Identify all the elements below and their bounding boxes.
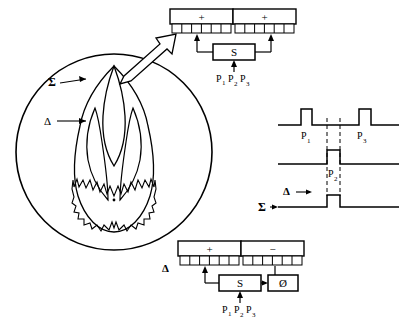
wave-delta-label: Δ (283, 185, 290, 197)
top-feed-network: + + (170, 9, 296, 88)
wave-p2-sub: 2 (334, 175, 338, 183)
bottom-left-port-label: + (206, 243, 212, 255)
bottom-feed-network: + − Δ (162, 241, 304, 319)
phase-shifter-label: Ø (279, 277, 287, 289)
bottom-right-port-label: − (269, 243, 275, 255)
sum-label: Σ (48, 75, 56, 89)
wave-p3-sub: 3 (363, 137, 367, 145)
coverage-circle (16, 54, 212, 250)
delta-label: Δ (44, 115, 51, 127)
bottom-left-element-strip (180, 256, 239, 265)
top-right-element-strip (235, 24, 294, 33)
waveform-group: P 1 P 3 P 2 Δ Σ (258, 109, 399, 214)
top-right-port-label: + (261, 11, 267, 23)
trace-delta-sum-output (278, 195, 399, 207)
top-combiner-input-arrowhead (231, 60, 237, 67)
top-left-port-label: + (198, 11, 204, 23)
top-left-feed-path (194, 34, 213, 52)
antenna-pattern-group: Σ Δ (16, 54, 212, 250)
top-left-element-strip (172, 24, 231, 33)
combiner-to-phase-link (261, 281, 268, 286)
bottom-combiner-label: S (237, 277, 243, 289)
block-arrow-icon (120, 34, 176, 84)
bottom-left-feed-arrowhead (202, 266, 208, 273)
top-combiner-input (231, 60, 237, 72)
sum-arrowhead (79, 76, 86, 82)
bottom-combiner-input-arrowhead (237, 291, 243, 298)
bottom-pulse-sub-2: 2 (240, 311, 244, 319)
boresight-dot (113, 199, 116, 202)
bottom-right-element-strip (243, 256, 302, 265)
wave-delta-arrowhead (306, 190, 312, 195)
delta-arrowhead (79, 118, 86, 124)
top-right-feed-path (255, 34, 274, 52)
top-combiner-label: S (231, 46, 237, 58)
bottom-left-feed-path (202, 266, 219, 283)
bottom-pulse-sub-1: 1 (228, 310, 232, 318)
wave-sum-arrowhead (272, 205, 278, 210)
monopulse-radar-diagram: Σ Δ + + (0, 0, 401, 326)
top-pulse-sub-2: 2 (234, 80, 238, 88)
callout-block-arrow (120, 34, 176, 84)
bottom-delta-label: Δ (162, 262, 169, 274)
trace-sum-channel (278, 109, 399, 125)
wave-p1-sub: 1 (307, 137, 311, 145)
top-pulse-sub-1: 1 (222, 79, 226, 87)
figure-root: Σ Δ + + (0, 0, 401, 326)
wave-sum-label: Σ (258, 200, 266, 214)
sidelobe-skirt (72, 179, 156, 231)
top-pulse-sub-3: 3 (246, 80, 250, 88)
bottom-pulse-labels: P 1 P 2 P 3 (222, 304, 256, 319)
trace-p2-channel (278, 150, 399, 164)
top-right-feed-arrowhead (268, 34, 274, 41)
bottom-pulse-sub-3: 3 (252, 311, 256, 319)
top-left-feed-arrowhead (194, 34, 200, 41)
top-pulse-labels: P 1 P 2 P 3 (216, 73, 250, 88)
phase-link-arrowhead (262, 281, 268, 286)
bottom-combiner-input (237, 291, 243, 303)
